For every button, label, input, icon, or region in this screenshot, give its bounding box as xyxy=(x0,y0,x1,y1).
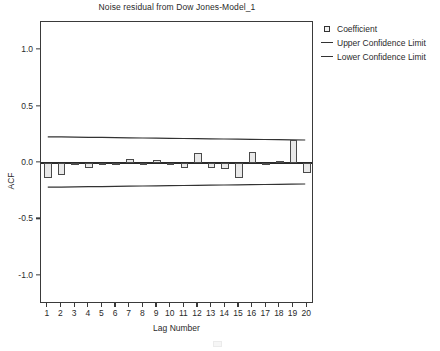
x-tick-mark xyxy=(292,303,293,307)
x-tick-mark xyxy=(210,303,211,307)
x-tick-mark xyxy=(237,303,238,307)
upper-confidence-limit-line xyxy=(48,137,305,140)
x-tick-label: 20 xyxy=(301,308,310,318)
x-tick-mark xyxy=(278,303,279,307)
x-tick-label: 4 xyxy=(85,308,90,318)
legend-label: Lower Confidence Limit xyxy=(337,52,426,62)
acf-bar xyxy=(181,163,189,168)
legend-item[interactable]: Upper Confidence Limit xyxy=(320,36,438,49)
legend-item[interactable]: Coefficient xyxy=(320,22,438,35)
x-tick-mark xyxy=(74,303,75,307)
legend: CoefficientUpper Confidence LimitLower C… xyxy=(320,22,438,64)
x-tick-label: 19 xyxy=(288,308,297,318)
legend-line-icon xyxy=(321,56,333,57)
acf-bar xyxy=(290,140,298,163)
y-tick-label: 0.0 xyxy=(21,157,33,167)
acf-bar xyxy=(71,163,79,165)
y-axis: ACF 1.00.50.0-0.5-1.0 xyxy=(0,21,40,303)
legend-key xyxy=(320,50,334,63)
acf-bar xyxy=(99,163,107,165)
acf-bar xyxy=(276,161,284,163)
x-tick-mark xyxy=(224,303,225,307)
x-tick-mark xyxy=(101,303,102,307)
legend-item[interactable]: Lower Confidence Limit xyxy=(320,50,438,63)
plot-area xyxy=(40,21,313,303)
x-tick-mark xyxy=(46,303,47,307)
x-tick-label: 17 xyxy=(260,308,269,318)
x-tick-mark xyxy=(87,303,88,307)
lower-confidence-limit-line xyxy=(48,184,305,187)
acf-bar xyxy=(58,163,66,175)
acf-bar xyxy=(208,163,216,168)
acf-bar xyxy=(167,163,175,165)
x-tick-mark xyxy=(114,303,115,307)
zero-baseline xyxy=(41,162,312,163)
acf-bar xyxy=(126,159,134,163)
acf-chart-root: Noise residual from Dow Jones-Model_1 AC… xyxy=(0,0,440,351)
legend-label: Coefficient xyxy=(337,24,377,34)
x-tick-label: 2 xyxy=(58,308,63,318)
legend-label: Upper Confidence Limit xyxy=(337,38,426,48)
acf-bar xyxy=(221,163,229,169)
acf-bar xyxy=(44,163,52,178)
x-tick-mark xyxy=(128,303,129,307)
acf-bar xyxy=(112,163,120,165)
acf-bar xyxy=(262,163,270,165)
acf-bar xyxy=(249,152,257,163)
acf-bar xyxy=(235,163,243,178)
x-tick-label: 7 xyxy=(126,308,131,318)
legend-line-icon xyxy=(321,42,333,43)
x-tick-label: 15 xyxy=(233,308,242,318)
page-title: Noise residual from Dow Jones-Model_1 xyxy=(40,2,314,12)
x-tick-label: 1 xyxy=(44,308,49,318)
x-tick-label: 14 xyxy=(220,308,229,318)
x-tick-label: 18 xyxy=(274,308,283,318)
x-tick-label: 9 xyxy=(154,308,159,318)
x-tick-label: 13 xyxy=(206,308,215,318)
y-tick-label: 0.5 xyxy=(21,101,33,111)
footer-artifact xyxy=(213,341,222,347)
x-tick-mark xyxy=(169,303,170,307)
y-tick-label: -0.5 xyxy=(18,213,33,223)
x-tick-mark xyxy=(60,303,61,307)
x-tick-mark xyxy=(155,303,156,307)
x-tick-label: 11 xyxy=(179,308,188,318)
legend-key xyxy=(320,22,334,35)
x-tick-label: 8 xyxy=(140,308,145,318)
x-tick-mark xyxy=(183,303,184,307)
acf-bar xyxy=(140,163,148,165)
x-axis: Lag Number 12345678910111213141516171819… xyxy=(40,303,313,349)
x-tick-label: 12 xyxy=(192,308,201,318)
x-tick-mark xyxy=(142,303,143,307)
x-tick-mark xyxy=(306,303,307,307)
x-axis-label: Lag Number xyxy=(40,323,313,333)
x-tick-label: 6 xyxy=(113,308,118,318)
y-axis-label: ACF xyxy=(6,156,16,206)
x-tick-label: 5 xyxy=(99,308,104,318)
legend-key xyxy=(320,36,334,49)
plot-inner xyxy=(41,22,312,302)
legend-square-icon xyxy=(324,26,330,32)
y-tick-label: -1.0 xyxy=(18,270,33,280)
x-tick-label: 10 xyxy=(165,308,174,318)
acf-bar xyxy=(194,153,202,163)
acf-bar xyxy=(303,163,311,173)
acf-bar xyxy=(153,160,161,163)
acf-bar xyxy=(85,163,93,168)
x-tick-mark xyxy=(196,303,197,307)
x-tick-mark xyxy=(265,303,266,307)
x-tick-mark xyxy=(251,303,252,307)
x-tick-label: 16 xyxy=(247,308,256,318)
x-tick-label: 3 xyxy=(72,308,77,318)
y-tick-label: 1.0 xyxy=(21,44,33,54)
